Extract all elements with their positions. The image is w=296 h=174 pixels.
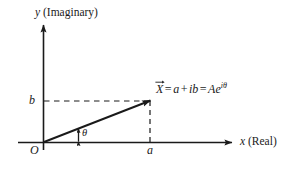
theta-angle-label: θ xyxy=(82,128,87,139)
vector-symbol-with-arrow: X xyxy=(156,83,163,95)
equation-vector-symbol: X xyxy=(156,82,163,96)
y-axis-description: (Imaginary) xyxy=(43,6,98,18)
complex-plane-figure: y (Imaginary) x (Real) O b a θ X =a+ib=A… xyxy=(0,0,296,174)
imaginary-component-label: b xyxy=(29,94,35,106)
y-axis-label: y (Imaginary) xyxy=(35,7,98,19)
x-axis-label: x (Real) xyxy=(240,136,277,148)
equation-equals-second: = xyxy=(198,82,208,96)
real-component-label: a xyxy=(147,144,153,156)
vector-x-arrow xyxy=(44,101,151,143)
equation-equals-first: = xyxy=(163,82,173,96)
vector-equation: X =a+ib=Aeiθ xyxy=(156,83,227,95)
x-axis-description: (Real) xyxy=(248,135,277,147)
vector-overarrow-icon xyxy=(155,79,165,84)
equation-exponent: iθ xyxy=(221,81,227,90)
equation-plus: + xyxy=(179,82,189,96)
origin-label: O xyxy=(30,144,39,156)
equation-imaginary-part: ib xyxy=(189,82,198,96)
equation-exponent-theta: θ xyxy=(223,81,227,90)
